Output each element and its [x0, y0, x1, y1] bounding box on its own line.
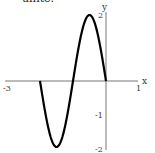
function-plot: x y -3 1 2 -1 -2 [0, 0, 155, 153]
x-axis-label: x [142, 76, 147, 86]
y-tick-2: 2 [98, 11, 103, 20]
x-tick-1: 1 [136, 84, 141, 93]
y-tick-neg1: -1 [95, 111, 103, 120]
y-tick-neg2: -2 [95, 145, 103, 153]
x-tick-neg3: -3 [3, 84, 11, 93]
